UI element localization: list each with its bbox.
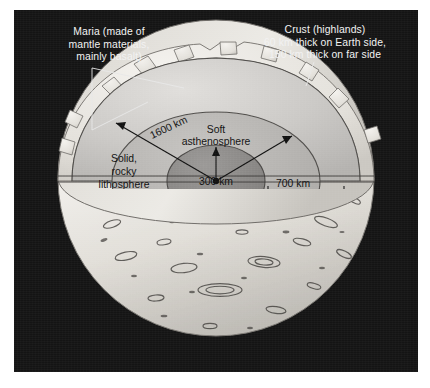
core-radius-label: 300 km: [199, 176, 233, 187]
asthenosphere-radius-label: 700 km: [276, 178, 310, 189]
asthenosphere-label-line1: Soft: [207, 124, 226, 135]
maria-callout: Maria (made of mantle materials, mainly …: [42, 26, 176, 64]
asthenosphere-label-line2: asthenosphere: [182, 136, 251, 147]
crust-callout: Crust (highlands) 60 km thick on Earth s…: [232, 24, 418, 62]
lithosphere-label-line1: Solid,: [111, 153, 137, 164]
lunar-interior-figure: Soft asthenosphere Core 300 km 1600 km 7…: [0, 0, 430, 388]
lithosphere-label-line2: rocky: [112, 166, 138, 177]
moon-cutaway-svg: Soft asthenosphere Core 300 km 1600 km 7…: [14, 10, 418, 372]
diagram-panel: Soft asthenosphere Core 300 km 1600 km 7…: [14, 10, 418, 372]
lithosphere-label-line3: lithosphere: [99, 179, 150, 190]
